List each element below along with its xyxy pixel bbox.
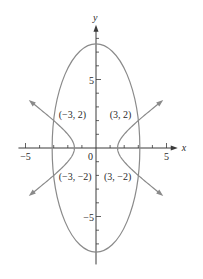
chart-plot: yx−5055−5(−3, 2)(3, 2)(−3, −2)(3, −2): [0, 0, 203, 279]
y-axis-label: y: [92, 12, 98, 23]
point-label: (3, −2): [104, 171, 131, 183]
point-label: (−3, −2): [59, 171, 92, 183]
x-axis-arrow-icon: [171, 146, 178, 151]
y-axis-arrow-icon: [94, 25, 99, 32]
y-tick-label: −5: [83, 212, 94, 223]
x-tick-label: −5: [20, 151, 31, 162]
labels: yx−5055−5(−3, 2)(3, 2)(−3, −2)(3, −2): [20, 12, 187, 223]
y-tick-label: 5: [89, 75, 94, 86]
x-axis-label: x: [181, 142, 187, 153]
point-label: (3, 2): [110, 109, 132, 121]
point-label: (−3, 2): [59, 109, 86, 121]
x-tick-label: 5: [164, 151, 169, 162]
x-tick-label: 0: [88, 151, 93, 162]
axes: [18, 25, 177, 265]
